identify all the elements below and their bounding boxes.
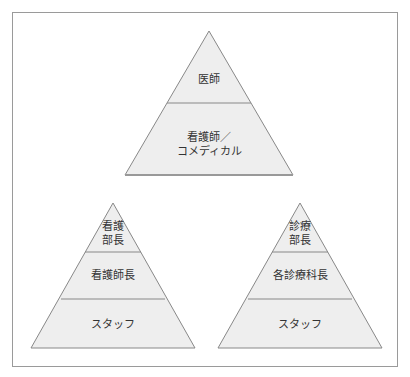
- top-level-1-label: 医師: [198, 73, 220, 87]
- right-level-1-label: 診療 部長: [289, 220, 311, 248]
- left-level-1-label: 看護 部長: [102, 220, 124, 248]
- left-level-3-label: スタッフ: [91, 318, 135, 332]
- right-level-3-label: スタッフ: [278, 318, 322, 332]
- left-level-2-label: 看護師長: [91, 269, 135, 283]
- right-level-2-label: 各診療科長: [273, 269, 328, 283]
- pyramids-canvas: [0, 0, 410, 377]
- top-level-2-label: 看護師／ コメディカル: [177, 131, 242, 159]
